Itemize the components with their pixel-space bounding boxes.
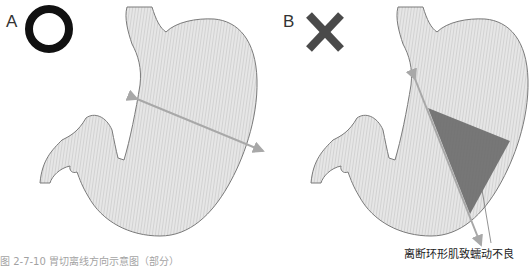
cross-incorrect-icon [309,15,341,49]
circle-correct-icon [29,9,69,49]
annotation-text: 离断环形肌致蠕动不良 [404,245,514,261]
panel-label-b: B [283,12,294,32]
stomach-a [40,7,257,236]
figure-caption: 图 2-7-10 胃切离线方向示意图（部分） [0,253,179,268]
stomach-b [311,7,528,236]
panel-label-a: A [6,12,17,32]
